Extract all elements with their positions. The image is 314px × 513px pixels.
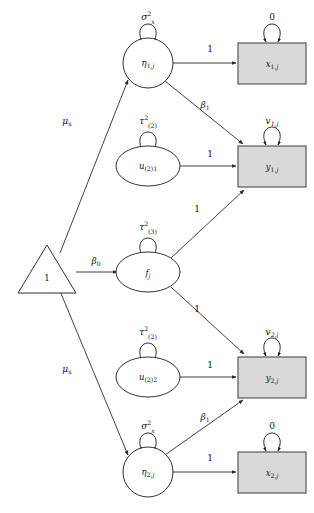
- variance-label-y1j: v1,j: [266, 116, 279, 128]
- variance-label-eta1: σ2x: [141, 10, 155, 24]
- path-diagram-svg: 1 η1,j u(2)1 fj u(2)2 η2,j x1,j y1,j y2,…: [0, 0, 314, 513]
- edge-label-eta1-y1j: β1: [199, 100, 209, 111]
- edge-label-fj-y2j: 1: [194, 304, 200, 314]
- variance-label-u21: τ2(2): [139, 114, 157, 128]
- variance-label-u22: τ2(2): [139, 325, 157, 339]
- edge-fj-y2j: [171, 287, 244, 354]
- variance-label-y2j: v2,j: [266, 327, 279, 339]
- path-diagram-canvas: 1 η1,j u(2)1 fj u(2)2 η2,j x1,j y1,j y2,…: [0, 0, 314, 513]
- edge-label-constant-eta1: μx: [62, 116, 72, 127]
- edge-eta2-y2j: [165, 400, 243, 455]
- edge-label-u21-y1j: 1: [207, 149, 213, 159]
- edge-eta1-y1j: [165, 81, 243, 144]
- node-label-constant: 1: [44, 273, 49, 283]
- edge-label-eta2-y2j: β1: [199, 412, 209, 423]
- variance-label-fj: τ2(3): [139, 220, 157, 234]
- loop-x1j: [264, 24, 280, 42]
- edge-label-u22-y2j: 1: [207, 360, 213, 370]
- edge-label-constant-eta2: μx: [62, 364, 72, 375]
- loop-x2j: [264, 433, 280, 451]
- node-constant-triangle[interactable]: [18, 245, 76, 293]
- variance-label-x1j: 0: [269, 12, 275, 22]
- edge-label-constant-fj: β0: [90, 256, 100, 267]
- edge-label-fj-y1j: 1: [194, 204, 200, 214]
- edge-fj-y1j: [171, 190, 244, 258]
- edge-label-eta1-x1j: 1: [207, 44, 213, 54]
- edge-label-eta2-x2j: 1: [207, 453, 213, 463]
- variance-label-eta2: σ2x: [141, 419, 155, 433]
- loop-y2j: [264, 338, 280, 356]
- variance-label-x2j: 0: [269, 421, 275, 431]
- loop-y1j: [264, 127, 280, 145]
